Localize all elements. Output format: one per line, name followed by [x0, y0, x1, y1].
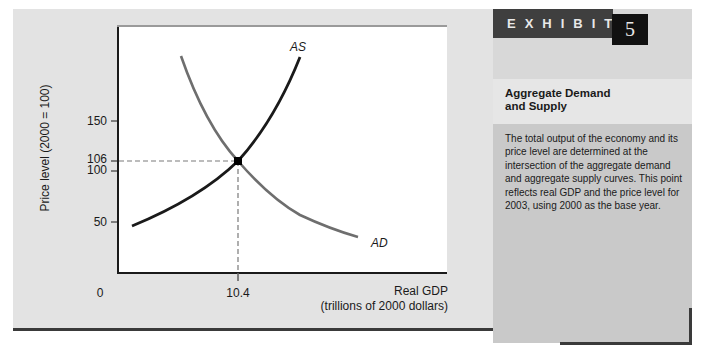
y-axis-label: Price level (2000 = 100)	[38, 63, 52, 233]
exhibit-title-line1: Aggregate Demand	[505, 87, 610, 100]
ad-curve	[181, 56, 358, 237]
exhibit-title: Aggregate Demand and Supply	[505, 87, 610, 113]
exhibit-number: 5	[612, 14, 648, 45]
exhibit-panel: EXHIBIT 5 Aggregate Demand and Supply Th…	[493, 9, 692, 343]
as-label: AS	[290, 40, 306, 54]
x-axis-label-line1: Real GDP	[300, 284, 448, 299]
as-curve	[132, 57, 300, 226]
exhibit-description: The total output of the economy and its …	[505, 132, 687, 212]
xtick-label-10-4: 10.4	[203, 286, 273, 300]
equilibrium-point	[234, 157, 242, 165]
ad-label: AD	[371, 236, 388, 250]
corner-bracket-horizontal	[560, 342, 692, 345]
ytick-label-100: 100	[67, 164, 107, 176]
exhibit-label: EXHIBIT	[507, 16, 621, 31]
exhibit-title-band: Aggregate Demand and Supply	[493, 79, 692, 124]
exhibit-band: EXHIBIT	[493, 9, 613, 38]
ytick-label-150: 150	[67, 114, 107, 128]
x-axis-label-line2: (trillions of 2000 dollars)	[280, 299, 448, 314]
exhibit-title-line2: and Supply	[505, 100, 610, 113]
xtick-label-0: 0	[65, 286, 135, 300]
ytick-label-50: 50	[67, 215, 107, 229]
corner-bracket-vertical	[689, 308, 692, 344]
